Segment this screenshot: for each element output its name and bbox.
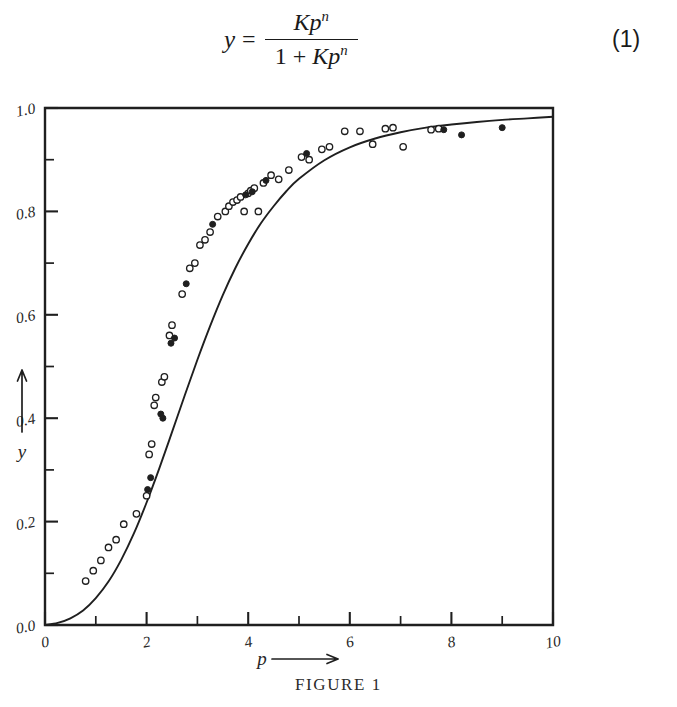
data-point-filled <box>441 127 447 133</box>
data-point-open <box>192 260 198 266</box>
data-point-open <box>179 291 185 297</box>
data-point-open <box>268 172 274 178</box>
y-axis-label: y <box>16 441 27 462</box>
numerator-base: Kp <box>293 9 321 35</box>
data-point-filled <box>160 415 166 421</box>
y-tick-label: 0.8 <box>14 203 37 223</box>
data-point-open <box>286 167 292 173</box>
data-point-open <box>306 157 312 163</box>
data-point-open <box>169 322 175 328</box>
x-axis-arrow-icon <box>272 655 338 664</box>
fraction-denominator: 1 + Kpn <box>265 40 358 71</box>
plot-frame <box>45 108 553 625</box>
x-tick-label: 2 <box>141 632 152 650</box>
data-point-open <box>215 213 221 219</box>
data-point-filled <box>304 151 310 157</box>
data-point-open <box>98 557 104 563</box>
data-point-open <box>382 125 388 131</box>
data-point-open <box>275 176 281 182</box>
data-point-open <box>105 544 111 550</box>
x-tick-label: 4 <box>243 632 254 650</box>
data-point-open <box>400 144 406 150</box>
data-point-filled <box>148 475 154 481</box>
numerator-exponent: n <box>321 8 328 24</box>
data-point-open <box>390 124 396 130</box>
data-point-open <box>161 374 167 380</box>
data-point-open <box>121 521 127 527</box>
data-point-filled <box>145 487 151 493</box>
denominator-base: Kp <box>312 43 340 69</box>
fit-curve-path <box>45 117 553 625</box>
data-point-filled <box>459 132 465 138</box>
x-tick-label: 8 <box>446 632 457 650</box>
x-tick-label: 0 <box>40 632 51 650</box>
equation-lhs: y <box>224 26 242 54</box>
x-axis-label: p <box>255 648 267 669</box>
data-point-open <box>148 441 154 447</box>
data-point-open <box>202 237 208 243</box>
data-points <box>82 124 505 584</box>
x-tick-label: 10 <box>544 632 563 652</box>
equation-block: y = Kpn 1 + Kpn (1) <box>0 0 677 92</box>
data-point-open <box>241 208 247 214</box>
data-point-filled <box>263 177 269 183</box>
data-point-open <box>207 229 213 235</box>
data-point-open <box>82 578 88 584</box>
data-point-filled <box>183 281 189 287</box>
axis-ticks <box>45 108 553 625</box>
data-point-open <box>428 127 434 133</box>
data-point-open <box>326 144 332 150</box>
scatter-plot: 0.00.20.40.60.81.00246810 yp <box>0 92 677 707</box>
axis-tick-labels: 0.00.20.40.60.81.00246810 <box>14 99 562 651</box>
equation-number: (1) <box>612 26 640 53</box>
fraction-numerator: Kpn <box>283 8 338 39</box>
data-point-open <box>133 511 139 517</box>
plot-border <box>45 108 553 625</box>
denominator-exponent: n <box>340 42 347 58</box>
data-point-open <box>187 265 193 271</box>
y-tick-label: 0.2 <box>14 513 37 533</box>
equation-fraction: Kpn 1 + Kpn <box>265 8 358 71</box>
data-point-filled <box>243 192 249 198</box>
equation-equals-sign: = <box>242 26 265 53</box>
y-tick-label: 1.0 <box>14 99 37 119</box>
equation-formula: y = Kpn 1 + Kpn <box>224 8 358 71</box>
data-point-open <box>319 146 325 152</box>
data-point-open <box>342 128 348 134</box>
data-point-open <box>90 568 96 574</box>
data-point-open <box>357 128 363 134</box>
data-point-filled <box>249 189 255 195</box>
data-point-open <box>143 493 149 499</box>
data-point-open <box>153 394 159 400</box>
y-tick-label: 0.4 <box>14 409 37 429</box>
data-point-open <box>255 208 261 214</box>
data-point-open <box>369 141 375 147</box>
figure-block: 0.00.20.40.60.81.00246810 yp FIGURE 1 <box>0 92 677 707</box>
data-point-filled <box>172 335 178 341</box>
data-point-open <box>197 242 203 248</box>
figure-caption: FIGURE 1 <box>0 675 677 695</box>
y-tick-label: 0.0 <box>14 616 37 636</box>
data-point-open <box>146 451 152 457</box>
data-point-filled <box>210 221 216 227</box>
x-tick-label: 6 <box>344 632 355 650</box>
data-point-open <box>113 536 119 542</box>
denominator-one: 1 + <box>275 43 307 69</box>
y-tick-label: 0.6 <box>14 306 37 326</box>
data-point-open <box>151 402 157 408</box>
data-point-filled <box>499 125 505 131</box>
fit-curve <box>45 117 553 625</box>
